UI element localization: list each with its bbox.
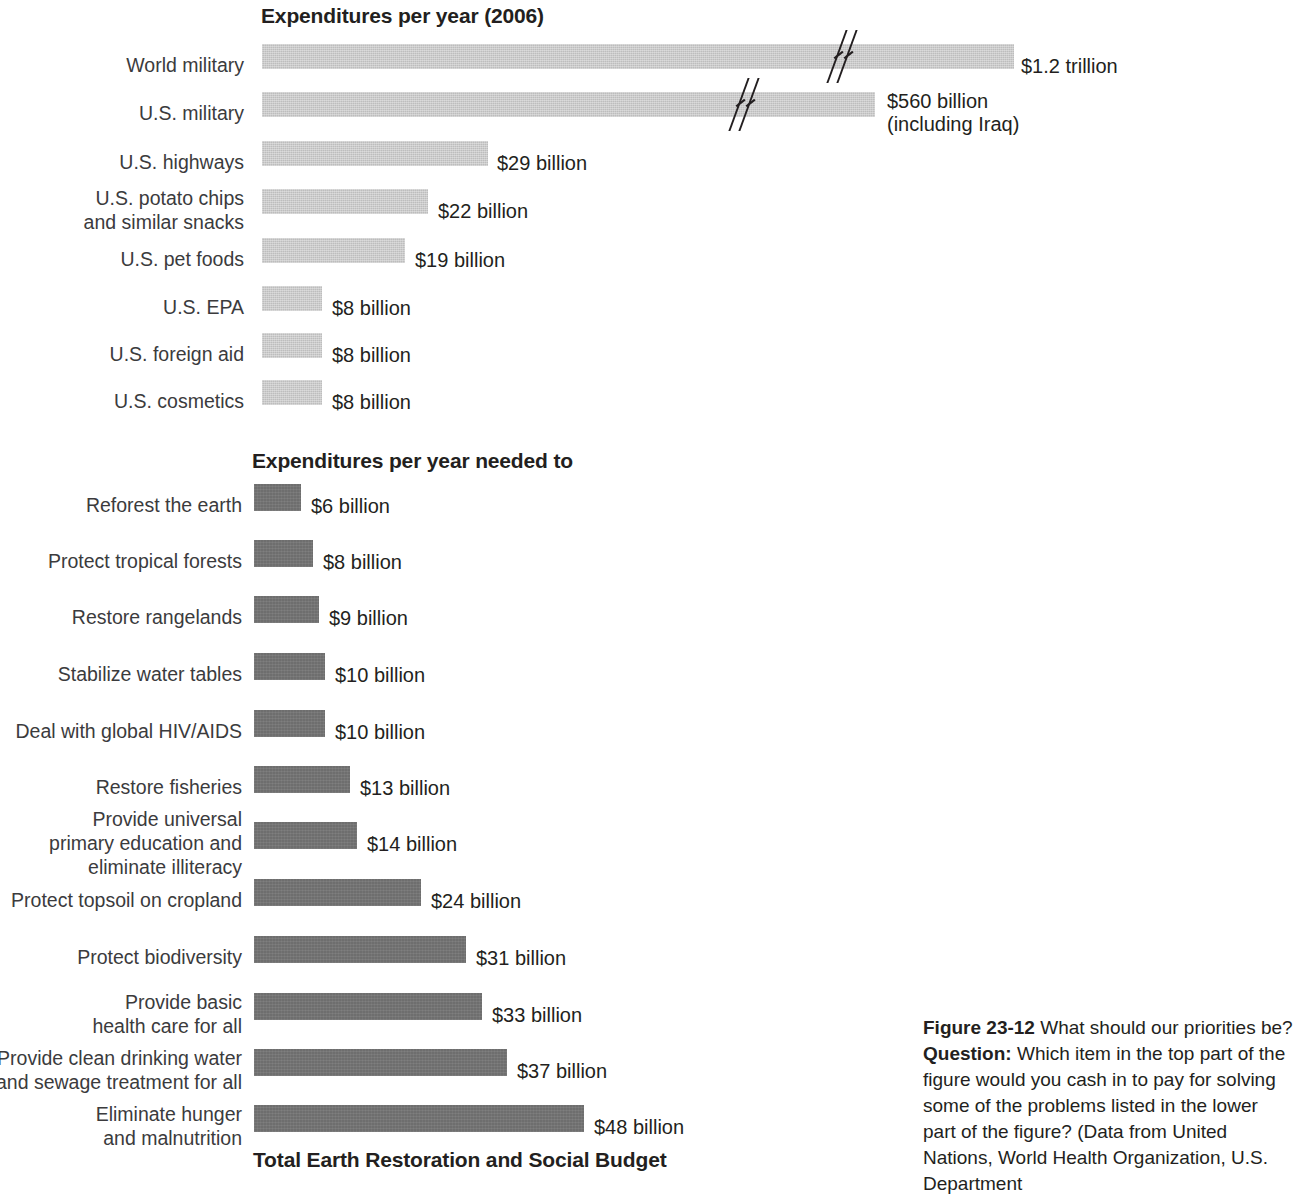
bar-value-label: $22 billion	[438, 200, 528, 223]
bar-value-label: $6 billion	[311, 495, 390, 518]
bar-value-label: $37 billion	[517, 1060, 607, 1083]
bar-value-label: $10 billion	[335, 664, 425, 687]
bar-value-label: $8 billion	[323, 551, 402, 574]
bar-value-label: $8 billion	[332, 297, 411, 320]
figure-number: Figure 23-12	[923, 1017, 1035, 1038]
bar-rect	[254, 1105, 584, 1132]
bar-value-label: $560 billion (including Iraq)	[887, 90, 1019, 136]
bar-value-label: $19 billion	[415, 249, 505, 272]
bar-label: Restore fisheries	[0, 775, 242, 799]
bar-value-label: $9 billion	[329, 607, 408, 630]
question-label: Question:	[923, 1043, 1012, 1064]
bar-rect	[262, 333, 322, 358]
bar-label: U.S. highways	[0, 150, 244, 174]
bar-value-label: $29 billion	[497, 152, 587, 175]
bar-label: U.S. foreign aid	[0, 342, 244, 366]
bar-rect	[262, 189, 428, 214]
bar-label: Protect biodiversity	[0, 945, 242, 969]
bar-rect	[254, 936, 466, 963]
bar-label: Reforest the earth	[0, 493, 242, 517]
bar-label: Stabilize water tables	[0, 662, 242, 686]
bar-rect	[254, 1049, 507, 1076]
question-text: Which item in the top part of the figure…	[923, 1043, 1285, 1194]
bar-value-label: $31 billion	[476, 947, 566, 970]
bar-value-label: $13 billion	[360, 777, 450, 800]
bar-rect	[262, 238, 405, 263]
bar-label: U.S. pet foods	[0, 247, 244, 271]
bar-label: World military	[0, 53, 244, 77]
bar-value-label: $8 billion	[332, 344, 411, 367]
bar-rect	[254, 540, 313, 567]
bar-value-label: $48 billion	[594, 1116, 684, 1139]
section-title-needed: Expenditures per year needed to	[252, 449, 573, 473]
bar-value-label: $10 billion	[335, 721, 425, 744]
bar-label: Provide universal primary education and …	[0, 807, 242, 879]
bar-rect	[254, 993, 482, 1020]
figure-caption: Figure 23-12 What should our priorities …	[923, 1015, 1295, 1197]
bar-rect	[262, 286, 322, 311]
bar-label: Eliminate hunger and malnutrition	[0, 1102, 242, 1150]
bar-value-label: $24 billion	[431, 890, 521, 913]
bar-rect	[254, 484, 301, 511]
bar-label: Protect topsoil on cropland	[0, 888, 242, 912]
bar-label: Restore rangelands	[0, 605, 242, 629]
bar-label: Provide clean drinking water and sewage …	[0, 1046, 242, 1094]
bar-label: U.S. potato chips and similar snacks	[0, 186, 244, 234]
bar-rect	[254, 710, 325, 737]
bar-value-label: $14 billion	[367, 833, 457, 856]
bar-label: Provide basic health care for all	[0, 990, 242, 1038]
bar-label: U.S. cosmetics	[0, 389, 244, 413]
bar-rect	[254, 822, 357, 849]
bar-rect	[254, 596, 319, 623]
bar-rect	[262, 92, 875, 117]
bar-rect	[254, 653, 325, 680]
figure-headline: What should our priorities be?	[1035, 1017, 1293, 1038]
bar-value-label: $8 billion	[332, 391, 411, 414]
bar-rect	[262, 141, 488, 166]
bar-rect	[254, 879, 421, 906]
bar-rect	[262, 44, 1014, 69]
total-budget-title: Total Earth Restoration and Social Budge…	[253, 1148, 667, 1172]
bar-rect	[254, 766, 350, 793]
bar-value-label: $1.2 trillion	[1021, 55, 1118, 78]
bar-rect	[262, 380, 322, 405]
bar-label: Deal with global HIV/AIDS	[0, 719, 242, 743]
bar-value-label: $33 billion	[492, 1004, 582, 1027]
section-title-expenditures: Expenditures per year (2006)	[261, 4, 544, 28]
bar-label: Protect tropical forests	[0, 549, 242, 573]
bar-label: U.S. EPA	[0, 295, 244, 319]
bar-label: U.S. military	[0, 101, 244, 125]
